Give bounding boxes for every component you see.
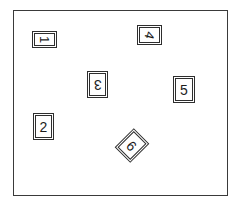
numbered-box-inner-border: 4 [139,27,160,43]
numbered-box-inner-border: 3 [89,73,106,96]
box-digit-label: 1 [38,36,51,43]
numbered-box-inner-border: 2 [35,115,52,138]
numbered-box-4[interactable]: 4 [137,25,162,45]
box-digit-label: 2 [40,120,48,134]
box-digit-label: 3 [94,78,102,92]
numbered-box-inner-border: 1 [34,33,55,46]
numbered-box-inner-border: 5 [175,78,193,101]
box-digit-label: 5 [180,83,188,97]
numbered-box-2[interactable]: 2 [33,113,54,140]
numbered-box-1[interactable]: 1 [32,31,57,48]
box-digit-label: 4 [142,30,156,40]
numbered-box-3[interactable]: 3 [87,71,108,98]
box-digit-label: 6 [124,138,139,153]
numbered-box-5[interactable]: 5 [173,76,195,103]
diagram-canvas: 143526 [0,0,241,206]
